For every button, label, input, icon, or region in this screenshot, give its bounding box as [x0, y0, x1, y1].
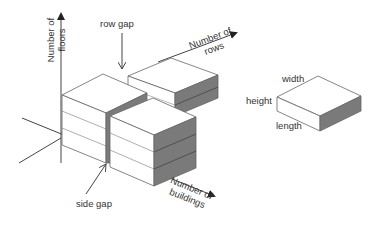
- row-gap-annotation: row gap: [100, 18, 134, 69]
- row-gap-label: row gap: [100, 18, 134, 29]
- floors-axis-label: Number of floors: [45, 17, 67, 62]
- side-gap-label: side gap: [76, 198, 112, 209]
- diagram-canvas: row gap side gap Number of floors Number…: [0, 0, 379, 228]
- side-gap-annotation: side gap: [76, 164, 112, 209]
- floors-label-line2: floors: [56, 28, 67, 51]
- floors-label-line1: Number of: [45, 17, 56, 62]
- legend-block: width height length: [246, 73, 361, 131]
- legend-width-label: width: [281, 73, 304, 84]
- legend-height-label: height: [246, 95, 272, 106]
- legend-length-label: length: [276, 120, 302, 131]
- front-building-block: [110, 98, 196, 186]
- diagonal-axis: [19, 138, 61, 163]
- rows-axis-label: Number of rows: [187, 25, 237, 62]
- buildings-axis-label: Number of buildings: [165, 174, 215, 211]
- side-gap-arrow: [86, 164, 106, 194]
